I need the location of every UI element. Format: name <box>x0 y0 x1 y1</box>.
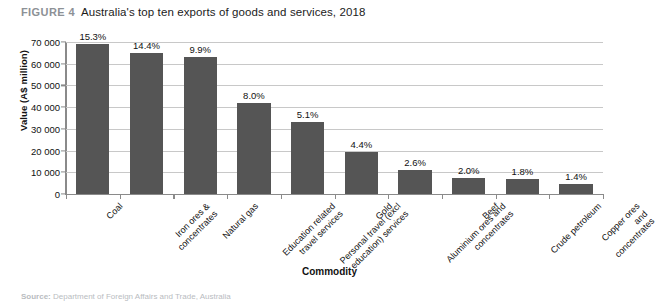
x-axis-tick-mark <box>442 194 443 199</box>
figure-title: Australia's top ten exports of goods and… <box>81 6 366 18</box>
x-axis-tick-label: Iron ores & concentrates <box>168 201 219 252</box>
x-axis-tick-mark <box>173 194 174 199</box>
bar-value-label: 14.4% <box>120 40 174 51</box>
bar-group[interactable]: 14.4% <box>120 42 174 194</box>
x-axis-title: Commodity <box>0 266 619 277</box>
bar-value-label: 2.0% <box>442 165 496 176</box>
bar-group[interactable]: 5.1% <box>281 42 335 194</box>
bar-group[interactable]: 1.8% <box>496 42 550 194</box>
bar-group[interactable]: 9.9% <box>173 42 227 194</box>
bar[interactable] <box>345 152 378 194</box>
y-axis-tick-label: 30 000 <box>31 123 60 134</box>
y-axis-tick-label: 10 000 <box>31 167 60 178</box>
source-text: Department of Foreign Affairs and Trade,… <box>53 292 231 301</box>
y-axis-tick-label: 0 <box>55 189 60 200</box>
bar-value-label: 5.1% <box>281 109 335 120</box>
bar[interactable] <box>398 170 431 194</box>
y-axis-tick-label: 20 000 <box>31 145 60 156</box>
bar-value-label: 1.4% <box>549 171 603 182</box>
y-axis-tick-label: 60 000 <box>31 58 60 69</box>
bar[interactable] <box>130 53 163 194</box>
bar-group[interactable]: 1.4% <box>549 42 603 194</box>
x-axis-tick-label: Education related travel services <box>281 201 345 265</box>
bar-group[interactable]: 15.3% <box>66 42 120 194</box>
x-axis-tick-mark <box>66 194 67 199</box>
y-axis-tick-label: 40 000 <box>31 102 60 113</box>
x-axis-tick-mark <box>549 194 550 199</box>
bar-value-label: 1.8% <box>496 166 550 177</box>
source-note: Source: Department of Foreign Affairs an… <box>21 292 231 303</box>
bar-value-label: 15.3% <box>66 31 120 42</box>
x-axis-title-text: Commodity <box>302 266 357 277</box>
bar[interactable] <box>452 178 485 194</box>
bar-group[interactable]: 8.0% <box>227 42 281 194</box>
plot-area: 010 00020 00030 00040 00050 00060 00070 … <box>66 42 603 194</box>
bar[interactable] <box>506 179 539 194</box>
bar[interactable] <box>76 44 109 194</box>
bar-group[interactable]: 2.6% <box>388 42 442 194</box>
bar-value-label: 2.6% <box>388 157 442 168</box>
bar-series: 15.3%14.4%9.9%8.0%5.1%4.4%2.6%2.0%1.8%1.… <box>66 42 603 194</box>
x-axis-tick-mark <box>227 194 228 199</box>
x-axis-tick-mark <box>120 194 121 199</box>
bar[interactable] <box>184 57 217 194</box>
bar[interactable] <box>559 184 592 194</box>
x-axis-tick-mark <box>603 194 604 199</box>
y-axis-tick-label: 50 000 <box>31 80 60 91</box>
x-axis-tick-label: Coal <box>105 201 126 222</box>
bar[interactable] <box>291 122 324 194</box>
x-axis-tick-mark <box>388 194 389 199</box>
x-axis-tick-label: Copper ores and concentrates <box>598 201 656 260</box>
x-axis-tick-label: Crude petroleum <box>549 201 604 256</box>
bar[interactable] <box>237 103 270 194</box>
figure-number: FIGURE 4 <box>21 6 75 18</box>
figure-header: FIGURE 4Australia's top ten exports of g… <box>21 6 365 18</box>
x-axis-tick-mark <box>496 194 497 199</box>
x-axis-tick-mark <box>335 194 336 199</box>
bar-value-label: 8.0% <box>227 90 281 101</box>
bar-group[interactable]: 4.4% <box>335 42 389 194</box>
bar-value-label: 4.4% <box>335 139 389 150</box>
x-axis-tick-mark <box>281 194 282 199</box>
y-axis-tick-label: 70 000 <box>31 37 60 48</box>
bar-group[interactable]: 2.0% <box>442 42 496 194</box>
bar-value-label: 9.9% <box>173 44 227 55</box>
y-axis-title: Value (A$ million) <box>18 21 29 161</box>
x-axis-tick-label: Aluminium ores and concentrates <box>445 201 516 272</box>
bar-chart: Value (A$ million) 010 00020 00030 00040… <box>0 28 619 283</box>
x-axis-tick-label: Natural gas <box>220 201 260 241</box>
source-label: Source: <box>21 292 51 301</box>
